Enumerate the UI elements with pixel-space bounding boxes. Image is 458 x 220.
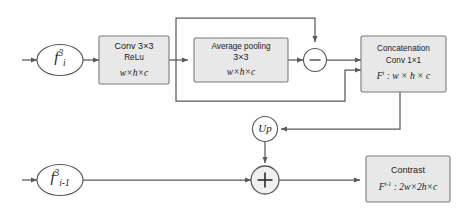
avgpool-box[interactable] [194, 38, 288, 82]
f-i-ellipse[interactable] [37, 45, 83, 76]
concatenation-box[interactable] [361, 36, 446, 92]
edge-concat-to-upsample [281, 92, 400, 129]
f-i-minus-1-ellipse[interactable] [37, 165, 83, 196]
contrast-box[interactable] [366, 156, 450, 202]
network-architecture-diagram [0, 0, 458, 220]
upsample-circle[interactable] [253, 117, 278, 142]
conv-box[interactable] [99, 36, 169, 84]
